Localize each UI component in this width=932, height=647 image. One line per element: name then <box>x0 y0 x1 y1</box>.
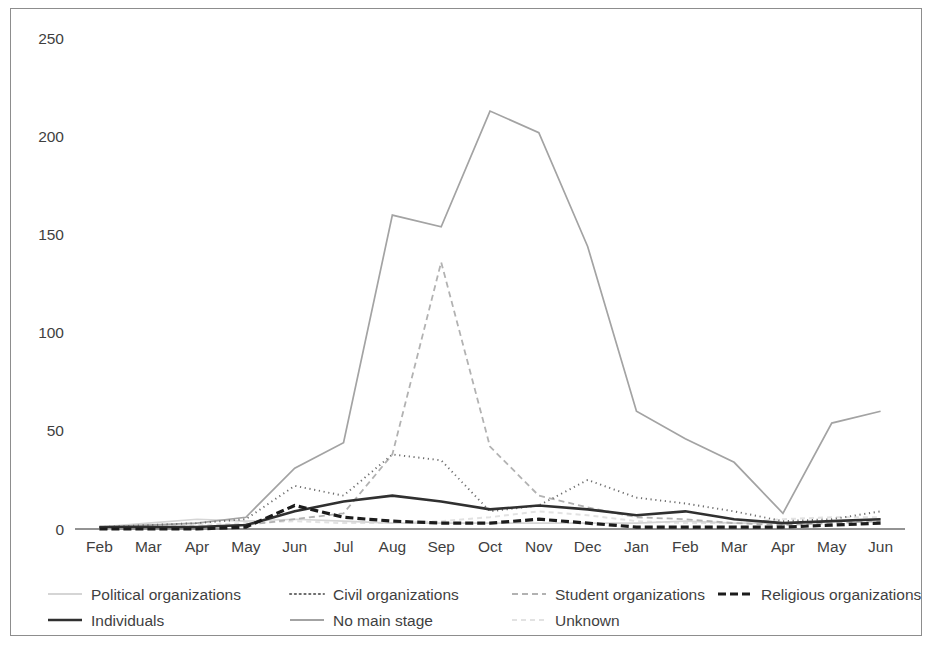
x-tick-label: Jan <box>624 538 649 555</box>
y-axis-tick-labels: 050100150200250 <box>38 30 64 538</box>
x-axis-tick-labels: FebMarAprMayJunJulAugSepOctNovDecJanFebM… <box>86 538 893 555</box>
x-tick-label: Dec <box>574 538 602 555</box>
y-tick-label: 150 <box>38 226 64 243</box>
x-tick-label: Feb <box>86 538 113 555</box>
line-chart-svg: 050100150200250 FebMarAprMayJunJulAugSep… <box>0 0 932 647</box>
plot-area-wrapper: 050100150200250 FebMarAprMayJunJulAugSep… <box>0 0 932 647</box>
x-tick-label: Feb <box>672 538 699 555</box>
legend-label-no-main-stage[interactable]: No main stage <box>333 612 433 629</box>
legend-label-individuals[interactable]: Individuals <box>91 612 164 629</box>
series-line-student-organizations <box>99 262 880 529</box>
x-tick-label: Mar <box>721 538 748 555</box>
y-tick-label: 50 <box>47 422 65 439</box>
x-tick-label: Jun <box>282 538 307 555</box>
x-tick-label: May <box>817 538 847 555</box>
legend-label-religious-organizations[interactable]: Religious organizations <box>761 586 922 603</box>
legend-label-student-organizations[interactable]: Student organizations <box>555 586 705 603</box>
y-tick-label: 250 <box>38 30 64 47</box>
x-tick-label: Apr <box>185 538 209 555</box>
x-tick-label: Mar <box>135 538 162 555</box>
x-tick-label: Apr <box>771 538 795 555</box>
y-tick-label: 200 <box>38 128 64 145</box>
legend-label-unknown[interactable]: Unknown <box>555 612 620 629</box>
y-tick-label: 100 <box>38 324 64 341</box>
legend-label-civil-organizations[interactable]: Civil organizations <box>333 586 459 603</box>
series-line-no-main-stage <box>99 111 880 527</box>
series-line-civil-organizations <box>99 454 880 527</box>
x-tick-label: Sep <box>427 538 455 555</box>
x-tick-label: Nov <box>525 538 553 555</box>
chart-legend: Political organizationsCivil organizatio… <box>48 586 922 629</box>
chart-root: 050100150200250 FebMarAprMayJunJulAugSep… <box>0 0 932 647</box>
x-tick-label: Jun <box>868 538 893 555</box>
series-lines-group <box>99 111 880 529</box>
y-tick-label: 0 <box>55 521 64 538</box>
x-tick-label: Oct <box>478 538 503 555</box>
x-tick-label: Aug <box>379 538 407 555</box>
legend-label-political-organizations[interactable]: Political organizations <box>91 586 241 603</box>
x-tick-label: May <box>231 538 261 555</box>
x-tick-label: Jul <box>334 538 354 555</box>
